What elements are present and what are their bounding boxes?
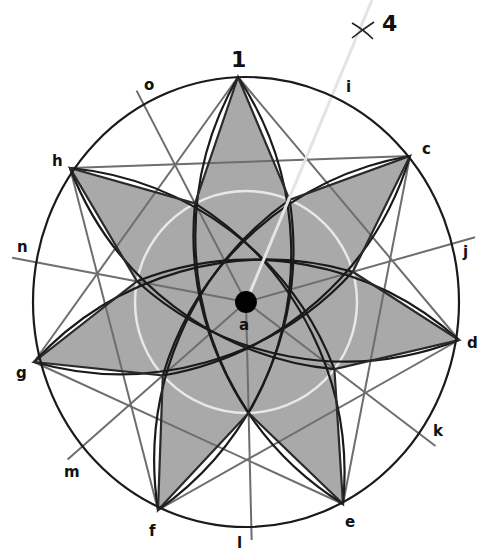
label-radial-n: n (17, 238, 28, 256)
star-construction-diagram: a 4 1 c d e f g h i j k l m n o (0, 0, 488, 554)
label-radial-l: l (237, 534, 242, 552)
label-radial-i: i (346, 78, 351, 96)
label-radial-m: m (64, 463, 80, 481)
label-radial-o: o (144, 76, 154, 94)
label-radial-k: k (433, 422, 444, 440)
label-point-f: f (149, 522, 156, 540)
label-point-d: d (467, 334, 478, 352)
label-construction-4: 4 (382, 11, 397, 36)
label-point-1: 1 (231, 47, 246, 72)
label-radial-j: j (462, 243, 468, 261)
label-point-c: c (422, 140, 431, 158)
label-center-a: a (239, 316, 249, 334)
label-point-g: g (16, 364, 27, 382)
label-point-h: h (52, 152, 63, 170)
center-point-a (235, 291, 257, 313)
label-point-e: e (345, 513, 355, 531)
